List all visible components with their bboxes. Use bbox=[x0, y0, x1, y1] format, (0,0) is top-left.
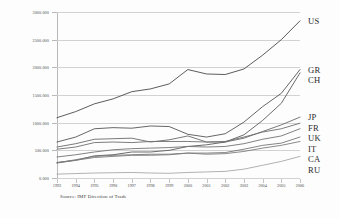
series-label-jp: JP bbox=[308, 112, 317, 122]
y-axis-tick bbox=[52, 123, 57, 124]
y-axis-tick-label: 1000.000 bbox=[0, 120, 49, 125]
series-line-us bbox=[57, 21, 300, 118]
x-axis-tick-label: 2002 bbox=[221, 183, 229, 188]
y-axis-tick-label: 500.000 bbox=[0, 148, 49, 153]
series-label-ch: CH bbox=[308, 75, 320, 85]
x-axis-tick-label: 1996 bbox=[109, 183, 117, 188]
y-axis-tick bbox=[52, 12, 57, 13]
y-axis-tick bbox=[52, 67, 57, 68]
series-label-fr: FR bbox=[308, 123, 319, 133]
y-axis-tick-label: 3000.000 bbox=[0, 10, 49, 15]
plot-area bbox=[57, 12, 300, 178]
series-label-ca: CA bbox=[308, 154, 320, 164]
y-axis-tick-label: 0.000 bbox=[0, 176, 49, 181]
source-note: Source: IMF Direction of Trade bbox=[60, 194, 127, 199]
x-axis-tick-label: 2003 bbox=[240, 183, 248, 188]
y-axis-tick-label: 2000.000 bbox=[0, 65, 49, 70]
x-axis-tick-label: 1997 bbox=[128, 183, 136, 188]
series-label-us: US bbox=[308, 16, 319, 26]
y-axis-tick bbox=[52, 95, 57, 96]
x-axis-tick-label: 2000 bbox=[184, 183, 192, 188]
series-lines bbox=[57, 12, 300, 178]
x-axis-tick-label: 1994 bbox=[72, 183, 80, 188]
series-label-uk: UK bbox=[308, 133, 321, 143]
series-label-ru: RU bbox=[308, 165, 320, 175]
y-axis-tick bbox=[52, 40, 57, 41]
x-axis-tick-label: 1993 bbox=[53, 183, 61, 188]
x-axis-tick-label: 2006 bbox=[296, 183, 304, 188]
x-axis-tick-label: 1999 bbox=[165, 183, 173, 188]
x-axis-tick-label: 1995 bbox=[90, 183, 98, 188]
x-axis-tick-label: 2005 bbox=[277, 183, 285, 188]
x-axis-tick-label: 1998 bbox=[146, 183, 154, 188]
series-line-ru bbox=[57, 156, 300, 174]
series-line-ch bbox=[57, 73, 300, 163]
x-axis-tick-label: 2001 bbox=[202, 183, 210, 188]
y-axis-tick bbox=[52, 150, 57, 151]
y-axis-tick-label: 2500.000 bbox=[0, 37, 49, 42]
series-label-gr: GR bbox=[308, 65, 320, 75]
line-chart: Billion US$ 0.000500.0001000.0001500.000… bbox=[0, 0, 340, 218]
x-axis-tick-label: 2004 bbox=[258, 183, 266, 188]
series-line-it bbox=[57, 137, 300, 163]
series-label-it: IT bbox=[308, 144, 317, 154]
y-axis-tick-label: 1500.000 bbox=[0, 93, 49, 98]
